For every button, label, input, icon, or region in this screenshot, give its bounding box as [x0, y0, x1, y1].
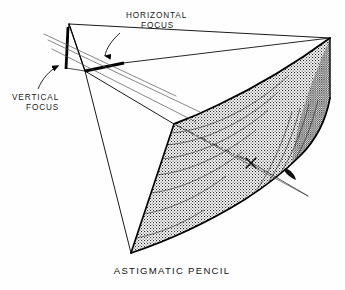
vertical-focus-label-line2: FOCUS [26, 103, 59, 112]
vertical-focus-line [66, 27, 68, 69]
astigmatic-pencil-diagram: HORIZONTAL FOCUS VERTICAL FOCUS ASTIGMAT… [0, 0, 345, 290]
figure-caption: ASTIGMATIC PENCIL [114, 265, 231, 276]
figure-root: HORIZONTAL FOCUS VERTICAL FOCUS ASTIGMAT… [0, 0, 345, 290]
vertical-focus-label-line1: VERTICAL [12, 93, 59, 102]
horizontal-focus-label-line1: HORIZONTAL [126, 11, 187, 20]
horizontal-focus-label-line2: FOCUS [141, 21, 174, 30]
